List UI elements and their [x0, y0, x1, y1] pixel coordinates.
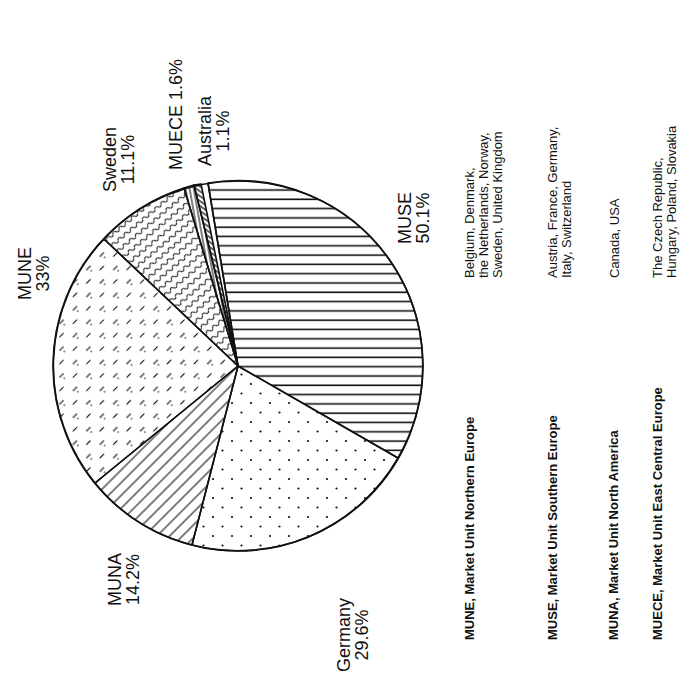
legend-desc-muece-line2: Hungary, Poland, Slovakia [665, 126, 679, 278]
legend-title-mune: MUNE, Market Unit Northern Europe [463, 417, 476, 640]
legend-desc-muse: Austria, France, Germany, Italy, Switzer… [546, 127, 574, 278]
legend-desc-muse-line2: Italy, Switzerland [560, 127, 574, 278]
legend-desc-mune-line3: Sweden, United Kingdom [491, 131, 505, 278]
label-sweden-name: Sweden [101, 127, 119, 192]
label-mune-name: MUNE [16, 247, 34, 300]
legend-title-muna: MUNA, Market Unit North America [607, 430, 620, 640]
legend-desc-muna-line1: Canada, USA [608, 199, 622, 279]
label-sweden-pct: 11.1% [119, 127, 137, 192]
label-muna: MUNA 14.2% [106, 553, 142, 606]
legend-desc-muna: Canada, USA [608, 199, 622, 279]
label-germany-pct: 29.6% [353, 598, 371, 672]
label-germany-name: Germany [335, 598, 353, 672]
label-australia-pct: 1.1% [214, 96, 232, 166]
legend-desc-mune: Belgium, Denmark, the Netherlands, Norwa… [463, 131, 505, 278]
label-muse-name: MUSE [396, 192, 414, 244]
legend-desc-mune-line2: the Netherlands, Norway, [477, 131, 491, 278]
label-germany: Germany 29.6% [335, 598, 371, 672]
label-muna-pct: 14.2% [124, 553, 142, 606]
label-muse: MUSE 50.1% [396, 192, 432, 244]
label-muece-text: MUECE 1.6% [167, 59, 185, 170]
label-muse-pct: 50.1% [414, 192, 432, 244]
label-australia: Australia 1.1% [196, 96, 232, 166]
label-muece: MUECE 1.6% [167, 59, 185, 170]
label-australia-name: Australia [196, 96, 214, 166]
legend-desc-muece: The Czech Republic, Hungary, Poland, Slo… [651, 126, 679, 278]
legend-desc-muece-line1: The Czech Republic, [651, 126, 665, 278]
label-muna-name: MUNA [106, 553, 124, 606]
label-sweden: Sweden 11.1% [101, 127, 137, 192]
label-mune-pct: 33% [34, 247, 52, 300]
label-mune: MUNE 33% [16, 247, 52, 300]
legend-desc-muse-line1: Austria, France, Germany, [546, 127, 560, 278]
legend-desc-mune-line1: Belgium, Denmark, [463, 131, 477, 278]
legend-title-muse: MUSE, Market Unit Southern Europe [546, 415, 559, 640]
legend-title-muece: MUECE, Market Unit East Central Europe [651, 387, 664, 640]
